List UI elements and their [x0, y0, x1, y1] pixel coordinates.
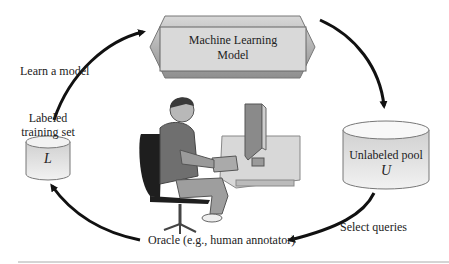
labeled-set-caption: Labeled training set — [8, 111, 88, 139]
oracle-label: Oracle (e.g., human annotator) — [148, 233, 295, 247]
arrow-oracle-to-labeled — [52, 186, 140, 240]
arrow-to-pool — [320, 20, 384, 106]
model-line1: Machine Learning — [160, 33, 306, 48]
unlabeled-pool-caption: Unlabeled pool — [343, 148, 429, 162]
labeled-caption-line2: training set — [8, 125, 88, 139]
labeled-set-symbol: L — [26, 151, 70, 167]
unlabeled-pool-symbol: U — [343, 163, 429, 179]
model-box-label: Machine Learning Model — [160, 33, 306, 63]
learn-model-label: Learn a model — [20, 64, 89, 78]
human-annotator-illustration — [139, 97, 300, 234]
select-queries-label: Select queries — [340, 220, 407, 234]
labeled-caption-line1: Labeled — [8, 111, 88, 125]
model-line2: Model — [160, 48, 306, 63]
